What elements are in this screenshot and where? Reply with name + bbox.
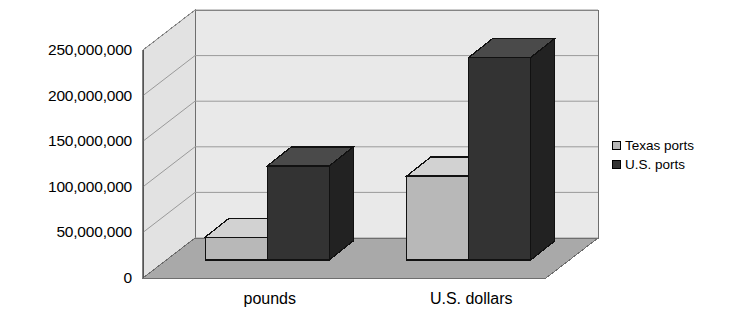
y-axis-tick-label: 0 bbox=[0, 269, 132, 287]
legend-item-label: Texas ports bbox=[625, 139, 694, 153]
chart-3d-grouped-bar: 050,000,000100,000,000150,000,000200,000… bbox=[0, 0, 747, 322]
y-axis-tick-label: 150,000,000 bbox=[0, 132, 132, 150]
y-axis-tick-label: 50,000,000 bbox=[0, 223, 132, 241]
chart-legend: Texas portsU.S. ports bbox=[612, 136, 694, 174]
legend-swatch-icon bbox=[612, 141, 621, 150]
legend-swatch-icon bbox=[612, 160, 621, 169]
y-axis-tick-label: 200,000,000 bbox=[0, 87, 132, 105]
x-axis-category-label: pounds bbox=[244, 290, 297, 308]
y-axis-tick-label: 100,000,000 bbox=[0, 178, 132, 196]
legend-item-label: U.S. ports bbox=[625, 158, 685, 172]
legend-item: U.S. ports bbox=[612, 155, 694, 174]
x-axis-category-label: U.S. dollars bbox=[430, 290, 513, 308]
y-axis-tick-label: 250,000,000 bbox=[0, 41, 132, 59]
legend-item: Texas ports bbox=[612, 136, 694, 155]
